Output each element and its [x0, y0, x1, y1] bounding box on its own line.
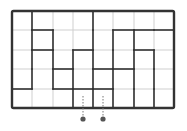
region-walls: [12, 11, 174, 108]
puzzle-board: [0, 0, 187, 131]
exit-dot-icon[interactable]: [100, 116, 105, 121]
exit-dot-icon[interactable]: [80, 116, 85, 121]
